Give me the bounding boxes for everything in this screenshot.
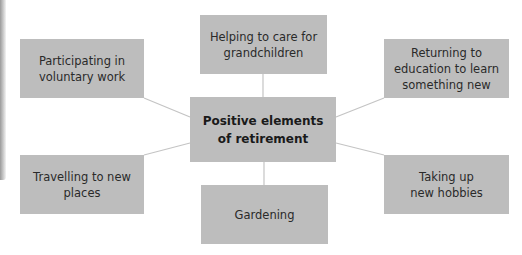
- node-label: Taking up new hobbies: [410, 169, 483, 201]
- node-label: Travelling to new places: [33, 169, 131, 201]
- connector-travelling: [144, 143, 190, 155]
- node-hobbies: Taking up new hobbies: [384, 155, 509, 214]
- node-voluntary-work: Participating in voluntary work: [20, 39, 144, 98]
- node-travelling: Travelling to new places: [20, 155, 144, 214]
- node-label: Participating in voluntary work: [39, 53, 125, 85]
- central-node: Positive elements of retirement: [190, 97, 336, 162]
- node-grandchildren: Helping to care for grandchildren: [200, 15, 327, 74]
- node-label: Gardening: [235, 207, 295, 223]
- node-label: Returning to education to learn somethin…: [394, 45, 499, 93]
- connector-voluntary: [144, 98, 190, 117]
- connector-hobbies: [336, 143, 384, 155]
- node-education: Returning to education to learn somethin…: [384, 39, 509, 98]
- node-gardening: Gardening: [201, 185, 328, 244]
- node-label: Helping to care for grandchildren: [210, 29, 317, 61]
- central-node-label: Positive elements of retirement: [203, 112, 324, 148]
- connector-education: [336, 98, 384, 117]
